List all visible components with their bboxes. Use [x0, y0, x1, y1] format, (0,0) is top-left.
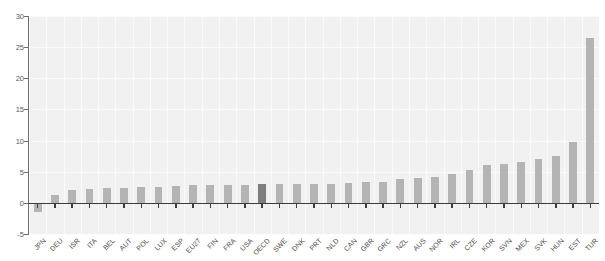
bar-eu27[interactable]: [189, 185, 197, 202]
y-axis-tick-label: 10: [0, 137, 24, 146]
gridline-vertical: [530, 16, 531, 234]
bar-aus[interactable]: [414, 178, 422, 203]
x-axis-tick: [331, 204, 332, 208]
bar-isr[interactable]: [68, 190, 76, 203]
x-axis-tick: [106, 204, 107, 208]
gridline-vertical: [202, 16, 203, 234]
x-axis-tick: [37, 204, 38, 208]
bar-nzl[interactable]: [396, 179, 404, 203]
gridline-vertical: [46, 16, 47, 234]
bar-ita[interactable]: [86, 189, 94, 203]
gridline-vertical: [409, 16, 410, 234]
gridline-vertical: [495, 16, 496, 234]
bar-svk[interactable]: [535, 159, 543, 203]
y-axis-tick: [24, 172, 29, 173]
x-axis-tick: [417, 204, 418, 208]
gridline-vertical: [29, 16, 30, 234]
bar-hun[interactable]: [552, 156, 560, 203]
y-axis-tick: [24, 141, 29, 142]
x-axis-tick: [313, 204, 314, 208]
x-axis-tick: [434, 204, 435, 208]
x-axis-tick: [572, 204, 573, 208]
x-axis-tick: [261, 204, 262, 208]
bar-nld[interactable]: [327, 184, 335, 203]
bar-mex[interactable]: [517, 162, 525, 203]
gridline-vertical: [444, 16, 445, 234]
bar-prt[interactable]: [310, 184, 318, 203]
x-axis-tick: [538, 204, 539, 208]
gridline-vertical: [564, 16, 565, 234]
gridline-vertical: [98, 16, 99, 234]
x-axis-tick: [348, 204, 349, 208]
bar-cze[interactable]: [466, 170, 474, 203]
gridline-vertical: [64, 16, 65, 234]
bar-esp[interactable]: [172, 186, 180, 203]
gridline-vertical: [219, 16, 220, 234]
x-axis-tick: [590, 204, 591, 208]
x-axis-tick: [123, 204, 124, 208]
x-axis-tick: [141, 204, 142, 208]
x-axis-tick: [365, 204, 366, 208]
y-axis-line: [28, 16, 29, 234]
bar-gbr[interactable]: [362, 182, 370, 203]
x-axis-tick: [555, 204, 556, 208]
bar-deu[interactable]: [51, 195, 59, 203]
y-axis-tick: [24, 78, 29, 79]
y-axis-tick-label: 5: [0, 168, 24, 177]
x-axis-tick: [521, 204, 522, 208]
bar-kor[interactable]: [483, 165, 491, 202]
y-axis-tick-label: 20: [0, 74, 24, 83]
x-axis-tick: [469, 204, 470, 208]
gridline-vertical: [254, 16, 255, 234]
bar-pol[interactable]: [137, 187, 145, 203]
x-axis-tick: [382, 204, 383, 208]
bar-tur[interactable]: [586, 38, 594, 203]
x-axis-tick: [451, 204, 452, 208]
bar-fra[interactable]: [224, 185, 232, 203]
bar-fin[interactable]: [206, 185, 214, 202]
y-axis-tick-label: 15: [0, 105, 24, 114]
bar-usa[interactable]: [241, 185, 249, 203]
x-axis-tick: [210, 204, 211, 208]
bar-irl[interactable]: [448, 174, 456, 203]
x-axis-tick: [503, 204, 504, 208]
bar-aut[interactable]: [120, 188, 128, 203]
x-axis-tick: [296, 204, 297, 208]
bar-est[interactable]: [569, 142, 577, 202]
bar-oecd[interactable]: [258, 184, 266, 203]
gridline-vertical: [323, 16, 324, 234]
x-axis-tick: [54, 204, 55, 208]
bar-grc[interactable]: [379, 182, 387, 203]
x-axis-tick: [71, 204, 72, 208]
x-axis-tick: [89, 204, 90, 208]
bar-can[interactable]: [345, 183, 353, 203]
gridline-vertical: [236, 16, 237, 234]
y-axis-tick-label: -5: [0, 230, 24, 239]
gridline-vertical: [392, 16, 393, 234]
x-axis-tick: [486, 204, 487, 208]
gridline-vertical: [184, 16, 185, 234]
x-axis-tick: [279, 204, 280, 208]
bar-dnk[interactable]: [293, 184, 301, 203]
gridline-vertical: [478, 16, 479, 234]
y-axis-tick: [24, 109, 29, 110]
gridline-vertical: [305, 16, 306, 234]
gridline-vertical: [461, 16, 462, 234]
gridline-vertical: [582, 16, 583, 234]
gridline-vertical: [547, 16, 548, 234]
x-axis-tick: [227, 204, 228, 208]
gridline-vertical: [513, 16, 514, 234]
gridline-vertical: [150, 16, 151, 234]
gridline-vertical: [81, 16, 82, 234]
bar-svn[interactable]: [500, 164, 508, 203]
bar-chart: 302520151050-5 JPNDEUISRITABELAUTPOLLUXE…: [0, 0, 605, 261]
bar-swe[interactable]: [276, 184, 284, 203]
bar-bel[interactable]: [103, 188, 111, 203]
y-axis-tick: [24, 47, 29, 48]
x-axis-tick: [175, 204, 176, 208]
x-axis-tick: [158, 204, 159, 208]
bar-nor[interactable]: [431, 177, 439, 203]
gridline-vertical: [167, 16, 168, 234]
bar-lux[interactable]: [155, 187, 163, 203]
y-axis-tick-label: 30: [0, 12, 24, 21]
